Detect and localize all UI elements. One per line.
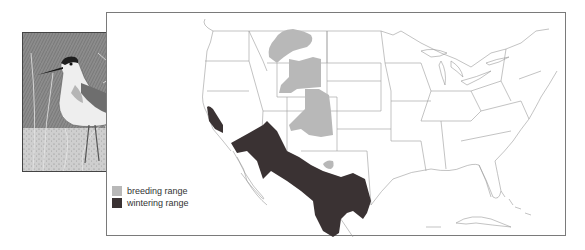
map-legend: breeding range wintering range bbox=[112, 185, 189, 209]
wintering-label: wintering range bbox=[127, 197, 189, 209]
legend-breeding: breeding range bbox=[112, 185, 189, 197]
breeding-wyoming-colorado bbox=[279, 57, 321, 93]
breeding-montana bbox=[269, 29, 313, 63]
state-borders bbox=[203, 19, 558, 237]
legend-wintering: wintering range bbox=[112, 197, 189, 209]
breeding-new-mexico bbox=[289, 89, 333, 137]
wintering-swatch bbox=[112, 198, 122, 208]
us-map bbox=[1, 1, 585, 250]
wintering-mexico bbox=[231, 121, 371, 237]
wintering-california bbox=[207, 106, 223, 133]
wintering-range-areas bbox=[207, 106, 371, 237]
breeding-swatch bbox=[112, 186, 122, 196]
breeding-texas-spot bbox=[323, 160, 334, 169]
breeding-label: breeding range bbox=[127, 185, 188, 197]
